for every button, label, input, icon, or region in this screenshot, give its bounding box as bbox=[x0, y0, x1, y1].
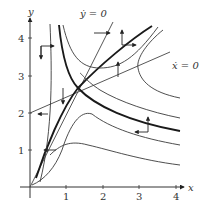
y-tick-4: 4 bbox=[18, 33, 24, 44]
trajectory bbox=[80, 73, 180, 118]
trajectory bbox=[40, 24, 51, 182]
y-tick-3: 3 bbox=[18, 71, 24, 82]
trajectory bbox=[50, 143, 180, 165]
xdot-label: ẋ = 0 bbox=[172, 60, 199, 71]
y-tick-1: 1 bbox=[18, 145, 24, 156]
x-tick-1: 1 bbox=[63, 191, 69, 202]
x-tick-2: 2 bbox=[100, 191, 106, 202]
unstable-separatrix bbox=[59, 25, 180, 131]
x-axis-label: x bbox=[188, 182, 194, 193]
trajectories bbox=[32, 24, 180, 185]
phase-portrait: 1 2 3 4 1 2 3 4 x y ẏ = 0 ẋ = 0 bbox=[0, 0, 210, 214]
separatrices bbox=[36, 25, 180, 178]
x-tick-3: 3 bbox=[136, 191, 142, 202]
y-axis-label: y bbox=[27, 6, 34, 17]
y-tick-2: 2 bbox=[18, 108, 24, 119]
x-tick-4: 4 bbox=[173, 191, 179, 202]
ydot-label: ẏ = 0 bbox=[79, 8, 107, 19]
